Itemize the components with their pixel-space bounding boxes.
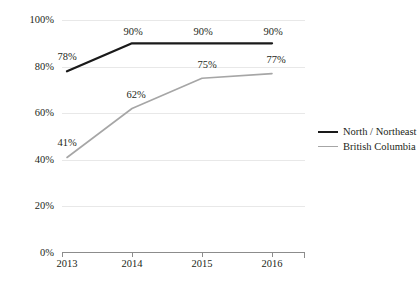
legend-swatch-icon-north-northeast <box>318 131 338 133</box>
legend-label-british-columbia: British Columbia <box>343 141 416 153</box>
legend: North / Northeast British Columbia <box>318 124 418 154</box>
x-axis-tick-2015 <box>272 253 273 257</box>
x-axis-tick-end <box>304 253 305 258</box>
x-axis-label-2013: 2013 <box>57 258 78 269</box>
x-axis-label-2016: 2016 <box>262 258 283 269</box>
y-axis-label-20: 20% <box>8 201 54 211</box>
x-axis-label-2014: 2014 <box>122 258 143 269</box>
data-label-bc-2014: 62% <box>126 89 145 100</box>
y-axis-label-80: 80% <box>8 62 54 72</box>
x-axis-tick-start <box>62 253 63 257</box>
y-axis-label-60: 60% <box>8 108 54 118</box>
x-axis-tick-2013 <box>132 253 133 257</box>
x-axis-label-2015: 2015 <box>192 258 213 269</box>
series-line-british-columbia <box>67 74 272 158</box>
y-axis-label-100: 100% <box>8 15 54 25</box>
data-label-bc-2016: 77% <box>266 54 285 65</box>
legend-item-british-columbia[interactable]: British Columbia <box>318 139 418 154</box>
data-label-north-2015: 90% <box>193 26 212 37</box>
legend-swatch-icon-british-columbia <box>318 146 338 148</box>
legend-label-north-northeast: North / Northeast <box>343 126 417 138</box>
data-label-north-2013: 78% <box>57 51 76 62</box>
data-label-north-2014: 90% <box>123 26 142 37</box>
x-axis-tick-2014 <box>202 253 203 257</box>
line-chart: 100% 80% 60% 40% 20% 0% 2013 2014 2015 2… <box>0 0 420 283</box>
data-label-north-2016: 90% <box>263 26 282 37</box>
data-label-bc-2015: 75% <box>197 59 216 70</box>
y-axis-label-0: 0% <box>8 248 54 258</box>
y-axis-label-40: 40% <box>8 155 54 165</box>
series-line-north-northeast <box>67 43 272 71</box>
data-label-bc-2013: 41% <box>57 137 76 148</box>
legend-item-north-northeast[interactable]: North / Northeast <box>318 124 418 139</box>
